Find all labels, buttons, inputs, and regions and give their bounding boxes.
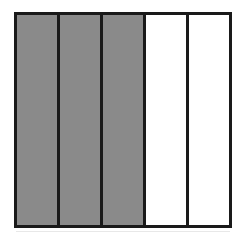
fraction-bar-diagram [14,12,232,228]
bar-cell-2-shaded [60,15,103,225]
bar-cell-4-unshaded [146,15,189,225]
bar-cell-3-shaded [103,15,146,225]
bar-cell-1-shaded [17,15,60,225]
scan-artifact-line [16,231,230,232]
figure-canvas [0,0,245,252]
bar-cell-5-unshaded [189,15,229,225]
